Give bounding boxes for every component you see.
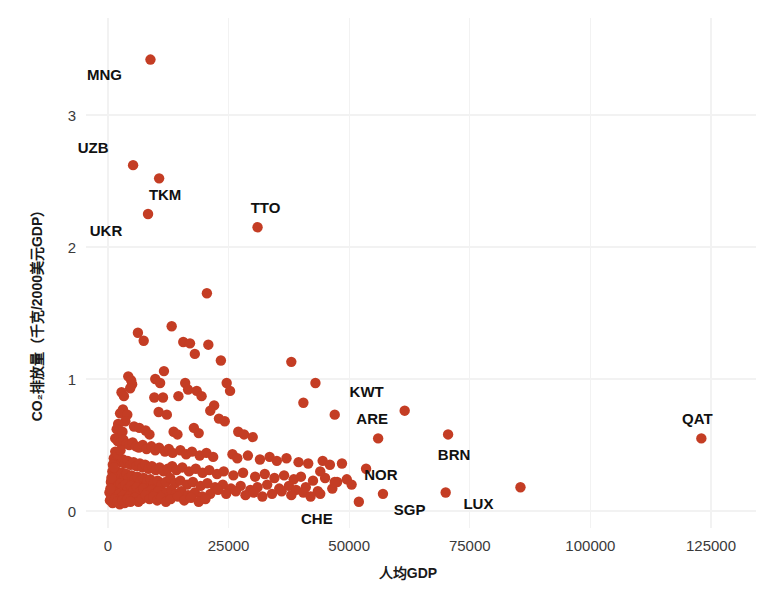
point-annotation-che: CHE bbox=[301, 510, 333, 527]
point-annotation-kwt: KWT bbox=[350, 383, 384, 400]
figure-background bbox=[0, 0, 766, 609]
data-point bbox=[250, 471, 260, 481]
data-point bbox=[276, 486, 286, 496]
data-point bbox=[298, 398, 308, 408]
data-point bbox=[281, 453, 291, 463]
y-tick-label: 1 bbox=[68, 371, 76, 388]
x-tick-label: 75000 bbox=[449, 537, 491, 554]
x-tick-label: 0 bbox=[104, 537, 112, 554]
data-point bbox=[125, 497, 135, 507]
data-point bbox=[109, 462, 119, 472]
data-point bbox=[145, 54, 155, 64]
data-point bbox=[154, 173, 164, 183]
data-point bbox=[238, 468, 248, 478]
data-point bbox=[159, 366, 169, 376]
data-point bbox=[373, 433, 383, 443]
data-point bbox=[262, 479, 272, 489]
y-tick-label: 3 bbox=[68, 107, 76, 124]
data-point bbox=[243, 450, 253, 460]
data-point bbox=[330, 477, 340, 487]
data-point bbox=[272, 456, 282, 466]
data-point bbox=[255, 454, 265, 464]
data-point bbox=[138, 336, 148, 346]
data-point bbox=[267, 489, 277, 499]
data-point bbox=[310, 378, 320, 388]
data-point bbox=[232, 453, 242, 463]
data-point bbox=[144, 429, 154, 439]
data-point bbox=[286, 357, 296, 367]
data-point bbox=[158, 392, 168, 402]
y-tick-label: 2 bbox=[68, 239, 76, 256]
data-point bbox=[330, 409, 340, 419]
x-axis-title: 人均GDP bbox=[379, 565, 437, 581]
y-axis-title: CO₂排放量（千克/2000美元GDP） bbox=[29, 203, 45, 422]
x-tick-label: 125000 bbox=[686, 537, 736, 554]
point-annotation-ukr: UKR bbox=[90, 222, 123, 239]
point-annotation-sgp: SGP bbox=[394, 501, 426, 518]
point-annotation-tto: TTO bbox=[251, 199, 281, 216]
data-point bbox=[305, 491, 315, 501]
data-point bbox=[337, 458, 347, 468]
point-annotation-qat: QAT bbox=[682, 410, 713, 427]
data-point bbox=[196, 391, 206, 401]
plot-canvas: 0250005000075000100000125000 0123 MNGUZB… bbox=[0, 0, 766, 609]
point-annotation-lux: LUX bbox=[463, 495, 493, 512]
data-point bbox=[105, 483, 115, 493]
data-point bbox=[202, 288, 212, 298]
data-point bbox=[173, 391, 183, 401]
data-point bbox=[128, 160, 138, 170]
point-annotation-are: ARE bbox=[356, 410, 388, 427]
data-point bbox=[203, 339, 213, 349]
data-point bbox=[183, 384, 193, 394]
data-point bbox=[221, 489, 231, 499]
data-point bbox=[225, 386, 235, 396]
data-point bbox=[286, 490, 296, 500]
data-point bbox=[166, 321, 176, 331]
data-point bbox=[143, 209, 153, 219]
data-point bbox=[399, 405, 409, 415]
data-point bbox=[346, 479, 356, 489]
data-point bbox=[106, 473, 116, 483]
data-point bbox=[515, 482, 525, 492]
data-point bbox=[279, 470, 289, 480]
data-point bbox=[248, 432, 258, 442]
data-point bbox=[193, 428, 203, 438]
data-point bbox=[172, 429, 182, 439]
data-point bbox=[219, 466, 229, 476]
point-annotation-tkm: TKM bbox=[149, 186, 182, 203]
data-point bbox=[115, 445, 125, 455]
point-annotation-nor: NOR bbox=[364, 466, 398, 483]
point-annotation-brn: BRN bbox=[438, 446, 471, 463]
data-point bbox=[325, 460, 335, 470]
data-point bbox=[216, 355, 226, 365]
data-point bbox=[220, 416, 230, 426]
data-point bbox=[119, 391, 129, 401]
data-point bbox=[257, 491, 267, 501]
data-point bbox=[303, 458, 313, 468]
data-point bbox=[208, 452, 218, 462]
data-point bbox=[155, 378, 165, 388]
data-point bbox=[293, 457, 303, 467]
data-point bbox=[315, 466, 325, 476]
data-point bbox=[315, 489, 325, 499]
data-point bbox=[162, 409, 172, 419]
x-tick-label: 25000 bbox=[208, 537, 250, 554]
data-point bbox=[296, 471, 306, 481]
point-annotation-mng: MNG bbox=[87, 66, 122, 83]
data-point bbox=[696, 433, 706, 443]
data-point bbox=[231, 486, 241, 496]
x-tick-label: 50000 bbox=[328, 537, 370, 554]
data-point bbox=[200, 494, 210, 504]
x-tick-label: 100000 bbox=[565, 537, 615, 554]
data-point bbox=[378, 489, 388, 499]
data-point bbox=[228, 470, 238, 480]
data-point bbox=[205, 405, 215, 415]
scatter-chart-figure: 0250005000075000100000125000 0123 MNGUZB… bbox=[0, 0, 766, 609]
point-annotation-uzb: UZB bbox=[78, 139, 109, 156]
data-point bbox=[260, 469, 270, 479]
data-point bbox=[190, 349, 200, 359]
y-tick-label: 0 bbox=[68, 503, 76, 520]
data-point bbox=[252, 222, 262, 232]
data-point bbox=[440, 487, 450, 497]
data-point bbox=[185, 338, 195, 348]
